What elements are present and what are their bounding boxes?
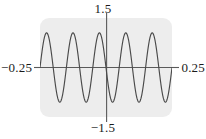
y-axis-max-label: 1.5 [0,2,206,15]
x-axis-min-label: −0.25 [1,61,32,74]
x-axis-max-label: 0.25 [181,61,205,74]
graph-figure: 1.5 −1.5 −0.25 0.25 [0,0,206,139]
plot-contents [40,14,178,121]
y-axis-min-label: −1.5 [0,121,206,134]
